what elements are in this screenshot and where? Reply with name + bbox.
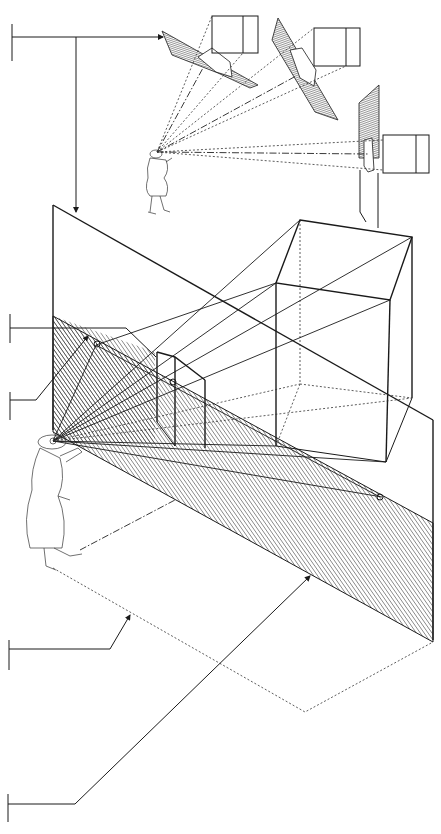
callout-5-leader	[8, 576, 310, 822]
tilted-picture-planes-inset	[12, 16, 429, 228]
inset-connector	[360, 170, 366, 222]
inset-plane-3	[359, 85, 379, 172]
main-scene	[8, 205, 433, 822]
perspective-diagram	[0, 0, 441, 834]
inset-plane-1	[162, 31, 258, 88]
inset-cube-3	[383, 135, 429, 173]
callout-1-leader	[12, 24, 163, 212]
inset-cube-1	[212, 16, 258, 53]
diagram-svg	[0, 0, 441, 834]
inset-sight-rays	[157, 16, 383, 170]
inset-cube-2	[314, 28, 360, 66]
observer-main	[26, 435, 82, 570]
callout-4-leader	[9, 615, 130, 670]
cube-main	[276, 220, 412, 462]
inset-plane-2	[272, 18, 338, 120]
observer-inset	[146, 150, 172, 214]
